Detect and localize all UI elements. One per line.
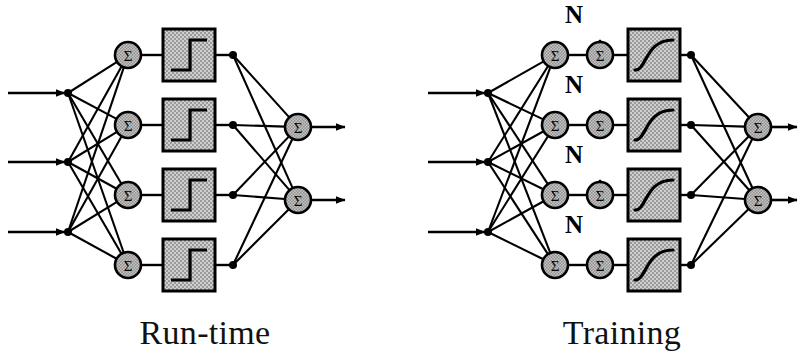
hidden-sum-node-4: Σ bbox=[115, 252, 141, 278]
sum-node-label: Σ bbox=[124, 258, 133, 274]
noise-adder-node-1: Σ bbox=[587, 42, 613, 68]
input-fanout-node-2 bbox=[64, 158, 72, 166]
step-activation-box-2 bbox=[163, 99, 215, 151]
hidden-tap-node-1 bbox=[687, 51, 695, 59]
noise-adder-node-2: Σ bbox=[587, 112, 613, 138]
step-activation-box-4 bbox=[163, 239, 215, 291]
hidden-tap-node-2 bbox=[687, 121, 695, 129]
hidden-tap-node-4 bbox=[687, 261, 695, 269]
sigmoid-activation-box-4 bbox=[628, 239, 680, 291]
input-fanout-node-2 bbox=[484, 158, 492, 166]
hidden-tap-node-4 bbox=[229, 261, 237, 269]
sum-node-label: Σ bbox=[124, 118, 133, 134]
sum-node-label: Σ bbox=[596, 258, 605, 274]
noise-label-2: N bbox=[565, 71, 583, 98]
sum-node-label: Σ bbox=[596, 118, 605, 134]
hidden-sum-node-3: Σ bbox=[115, 182, 141, 208]
input-fanout-node-3 bbox=[64, 228, 72, 236]
step-activation-box-3 bbox=[163, 169, 215, 221]
caption-run-time: Run-time bbox=[140, 314, 271, 351]
noise-label-3: N bbox=[565, 141, 583, 168]
sum-node-label: Σ bbox=[551, 48, 560, 64]
activation-box-frame bbox=[628, 239, 680, 291]
sum-node-label: Σ bbox=[754, 120, 763, 136]
sum-node-label: Σ bbox=[551, 188, 560, 204]
hidden-sum-node-4: Σ bbox=[542, 252, 568, 278]
input-fanout-node-1 bbox=[484, 89, 492, 97]
hidden-sum-node-2: Σ bbox=[542, 112, 568, 138]
input-fanout-node-3 bbox=[484, 228, 492, 236]
hidden-tap-node-1 bbox=[229, 51, 237, 59]
hidden-sum-node-1: Σ bbox=[542, 42, 568, 68]
activation-box-frame bbox=[628, 29, 680, 81]
sum-node-label: Σ bbox=[294, 193, 303, 209]
sigmoid-activation-box-3 bbox=[628, 169, 680, 221]
hidden-sum-node-3: Σ bbox=[542, 182, 568, 208]
output-sum-node-2: Σ bbox=[285, 187, 311, 213]
sigmoid-activation-box-1 bbox=[628, 29, 680, 81]
hidden-sum-node-2: Σ bbox=[115, 112, 141, 138]
sum-node-label: Σ bbox=[294, 120, 303, 136]
noise-adder-node-4: Σ bbox=[587, 252, 613, 278]
activation-box-frame bbox=[628, 99, 680, 151]
sum-node-label: Σ bbox=[551, 258, 560, 274]
output-sum-node-1: Σ bbox=[285, 114, 311, 140]
sum-node-label: Σ bbox=[596, 48, 605, 64]
hidden-sum-node-1: Σ bbox=[115, 42, 141, 68]
output-sum-node-2: Σ bbox=[745, 187, 771, 213]
sum-node-label: Σ bbox=[596, 188, 605, 204]
step-activation-box-1 bbox=[163, 29, 215, 81]
hidden-tap-node-3 bbox=[687, 191, 695, 199]
noise-label-4: N bbox=[565, 211, 583, 238]
sum-node-label: Σ bbox=[124, 48, 133, 64]
sum-node-label: Σ bbox=[754, 193, 763, 209]
output-sum-node-1: Σ bbox=[745, 114, 771, 140]
hidden-tap-node-2 bbox=[229, 121, 237, 129]
sum-node-label: Σ bbox=[124, 188, 133, 204]
figure-container: ΣΣΣΣΣΣ ΣΣΣΣΣNΣNΣNΣNΣΣ Run-time Training bbox=[0, 0, 801, 358]
activation-box-frame bbox=[628, 169, 680, 221]
caption-training: Training bbox=[563, 314, 681, 351]
sum-node-label: Σ bbox=[551, 118, 560, 134]
neural-network-diagram: ΣΣΣΣΣΣ ΣΣΣΣΣNΣNΣNΣNΣΣ Run-time Training bbox=[0, 0, 801, 358]
sigmoid-activation-box-2 bbox=[628, 99, 680, 151]
input-fanout-node-1 bbox=[64, 89, 72, 97]
noise-label-1: N bbox=[565, 1, 583, 28]
noise-adder-node-3: Σ bbox=[587, 182, 613, 208]
hidden-tap-node-3 bbox=[229, 191, 237, 199]
